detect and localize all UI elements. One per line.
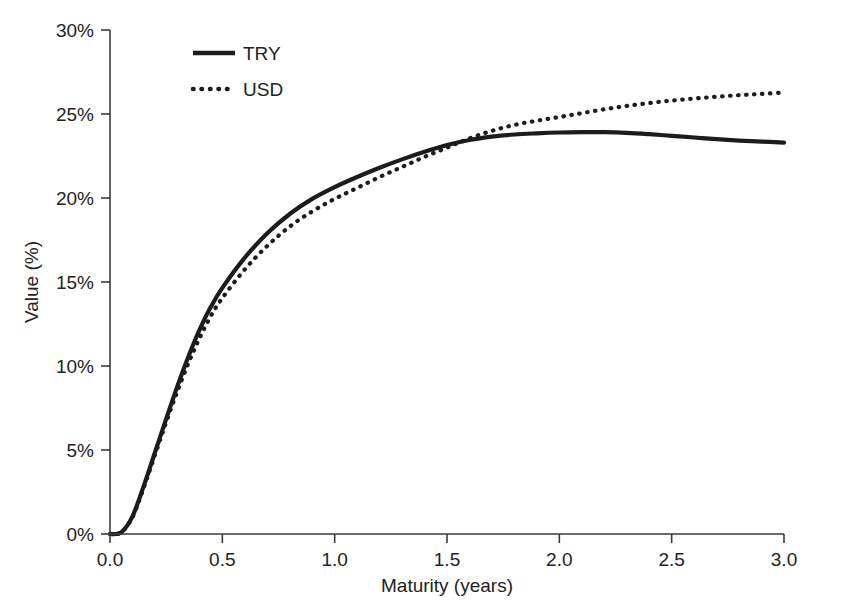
y-axis-title: Value (%) <box>21 241 42 323</box>
x-tick-label: 0.0 <box>97 549 123 570</box>
legend-label-usd: USD <box>243 79 283 100</box>
y-axis: 0%5%10%15%20%25%30% <box>56 20 110 545</box>
series-layer <box>110 93 784 535</box>
series-line-usd <box>110 93 784 535</box>
y-tick-label: 0% <box>67 524 95 545</box>
legend: TRYUSD <box>193 43 283 100</box>
x-tick-label: 1.5 <box>434 549 460 570</box>
x-tick-group: 0.00.51.01.52.02.53.0 <box>97 534 797 570</box>
x-tick-label: 2.0 <box>546 549 572 570</box>
plot-area <box>110 93 784 535</box>
y-tick-label: 30% <box>56 20 94 41</box>
legend-label-try: TRY <box>243 43 281 64</box>
x-tick-label: 0.5 <box>209 549 235 570</box>
y-tick-label: 15% <box>56 272 94 293</box>
y-tick-label: 25% <box>56 104 94 125</box>
y-tick-label: 5% <box>67 440 95 461</box>
x-tick-label: 3.0 <box>771 549 797 570</box>
x-axis: 0.00.51.01.52.02.53.0 <box>97 534 797 570</box>
x-tick-label: 2.5 <box>658 549 684 570</box>
chart-figure: 0%5%10%15%20%25%30% 0.00.51.01.52.02.53.… <box>0 0 851 611</box>
y-tick-group: 0%5%10%15%20%25%30% <box>56 20 110 545</box>
x-axis-title: Maturity (years) <box>381 575 513 596</box>
chart-svg: 0%5%10%15%20%25%30% 0.00.51.01.52.02.53.… <box>0 0 851 611</box>
x-tick-label: 1.0 <box>321 549 347 570</box>
y-tick-label: 10% <box>56 356 94 377</box>
series-line-try <box>110 132 784 534</box>
y-tick-label: 20% <box>56 188 94 209</box>
